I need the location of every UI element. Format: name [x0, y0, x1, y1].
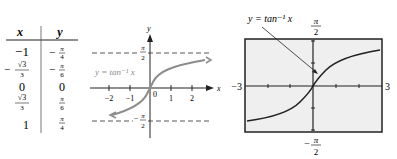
svg-text:√3: √3	[18, 60, 26, 69]
values-table: x y −1 − π 4 − √3 3 − π 6 0 0 √3	[0, 0, 90, 159]
cell-y-3: 0	[59, 80, 65, 94]
svg-text:−: −	[134, 114, 139, 123]
cell-x-2: − √3 3	[4, 60, 29, 79]
cell-x-5: 1	[23, 118, 29, 132]
svg-text:π: π	[60, 115, 64, 123]
cell-x-4: √3 3	[15, 93, 29, 112]
calc-curve-label: y = tan⁻¹ x	[247, 13, 293, 24]
cell-y-5: π 4	[59, 115, 65, 132]
tick-0: 0	[153, 90, 157, 99]
svg-text:3: 3	[20, 71, 24, 79]
tick-neg2: −2	[105, 94, 114, 103]
y-axis-label: y	[146, 24, 151, 33]
svg-text:−: −	[49, 63, 55, 75]
svg-text:π: π	[141, 112, 145, 120]
svg-text:2: 2	[314, 27, 319, 37]
calc-x-min: −3	[231, 81, 242, 92]
cell-y-2: − π 6	[49, 62, 65, 79]
svg-text:π: π	[60, 45, 64, 53]
svg-text:π: π	[60, 95, 64, 103]
header-x: x	[16, 25, 23, 39]
svg-text:π: π	[314, 135, 319, 145]
tick-1: 1	[169, 94, 173, 103]
svg-text:−: −	[49, 46, 55, 58]
table-rules: x y −1 − π 4 − √3 3 − π 6 0 0 √3	[0, 0, 90, 159]
y-axis-arrow-icon	[147, 34, 153, 42]
svg-text:√3: √3	[18, 93, 26, 102]
cell-x-1: −1	[15, 44, 29, 59]
svg-text:3: 3	[20, 104, 24, 112]
svg-text:π: π	[141, 44, 145, 52]
svg-text:−: −	[304, 138, 310, 149]
x-axis-label: x	[216, 84, 221, 93]
tick-neg1: −1	[126, 94, 135, 103]
svg-text:π: π	[314, 16, 319, 26]
svg-text:4: 4	[60, 124, 64, 132]
svg-text:−: −	[4, 63, 10, 75]
upper-asymptote-label: π 2	[139, 43, 148, 65]
cell-y-1: − π 4	[49, 45, 65, 61]
svg-text:6: 6	[60, 104, 64, 112]
x-axis-arrow-icon	[206, 85, 214, 91]
svg-text:2: 2	[141, 54, 145, 62]
svg-text:6: 6	[60, 71, 64, 79]
calculator-graph: y = tan⁻¹ x −3 3 π 2 − π 2	[222, 0, 397, 159]
svg-text:2: 2	[141, 122, 145, 130]
curve-arrow-right-icon	[206, 57, 211, 63]
cell-x-3: 0	[19, 80, 25, 94]
lower-asymptote-label: − π 2	[133, 111, 148, 133]
cell-y-4: π 6	[59, 95, 65, 112]
svg-text:2: 2	[314, 147, 319, 157]
sketch-graph: x y −2 −1 0 1 2 π 2 − π 2	[88, 0, 223, 159]
calc-y-max: π 2	[311, 16, 321, 37]
tick-2: 2	[190, 94, 194, 103]
svg-text:4: 4	[60, 53, 64, 61]
calc-y-min: − π 2	[304, 135, 321, 157]
header-y: y	[55, 25, 63, 39]
calc-x-max: 3	[385, 81, 390, 92]
svg-text:π: π	[60, 62, 64, 70]
sketch-curve-label: y = tan⁻¹ x	[94, 67, 135, 77]
